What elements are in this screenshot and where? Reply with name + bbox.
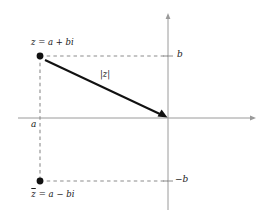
label-point-z-text: z = a + bi (31, 37, 74, 47)
label-point-z: z = a + bi (31, 38, 74, 47)
imaginary-axis-arrowhead-icon (166, 13, 171, 19)
label-axis-b-text: b (177, 49, 183, 59)
point-z (37, 53, 44, 60)
label-point-z-conjugate: z = a − bi (31, 190, 74, 199)
label-axis-b: b (177, 50, 183, 59)
label-axis-a: a (31, 120, 36, 129)
label-axis-negative-b: −b (175, 175, 188, 184)
label-z-conjugate-equals-sign: = (39, 189, 46, 199)
real-axis (18, 116, 256, 121)
point-z-conjugate (37, 178, 44, 185)
label-modulus: |z| (100, 70, 110, 79)
label-axis-a-text: a (31, 119, 36, 129)
label-z-conjugate-expr: a − bi (49, 189, 75, 199)
label-modulus-text: |z| (100, 69, 110, 79)
complex-plane-figure: z = a + bi z = a − bi |z| b −b a (0, 0, 267, 219)
complex-plane-canvas (0, 0, 267, 219)
label-axis-negative-b-text: −b (175, 174, 188, 184)
real-axis-arrowhead-icon (250, 116, 256, 121)
